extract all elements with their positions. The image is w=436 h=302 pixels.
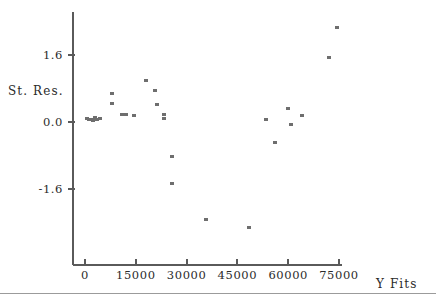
data-point — [264, 118, 268, 121]
data-point — [335, 26, 339, 29]
data-point — [132, 114, 136, 117]
x-tick-mark — [287, 259, 289, 266]
data-point — [300, 114, 304, 117]
data-point — [98, 117, 102, 120]
x-tick-mark — [338, 259, 340, 266]
data-point — [273, 141, 277, 144]
y-tick-label: 0.0 — [3, 115, 63, 129]
x-tick-mark — [135, 259, 137, 266]
plot-area: 1.60.0-1.6 01500030000450006000075000 St… — [0, 0, 436, 302]
data-point — [110, 92, 114, 95]
x-tick-mark — [186, 259, 188, 266]
x-tick-mark — [84, 259, 86, 266]
x-tick-label: 75000 — [304, 268, 374, 282]
y-tick-mark — [68, 121, 75, 123]
y-axis-title: St. Res. — [8, 84, 64, 98]
data-point — [327, 56, 331, 59]
residual-scatter-plot-figure: 1.60.0-1.6 01500030000450006000075000 St… — [0, 0, 436, 302]
data-point — [91, 119, 95, 122]
x-tick-mark — [236, 259, 238, 266]
data-point — [144, 79, 148, 82]
y-tick-mark — [68, 188, 75, 190]
data-point — [289, 123, 293, 126]
y-tick-mark — [68, 54, 75, 56]
data-point — [124, 113, 128, 116]
data-point — [110, 102, 114, 105]
x-axis-line — [73, 264, 342, 266]
data-point — [247, 226, 251, 229]
data-point — [286, 107, 290, 110]
data-point — [155, 103, 159, 106]
y-axis-line — [72, 12, 74, 265]
data-point — [170, 182, 174, 185]
data-point — [162, 117, 166, 120]
bottom-divider-rule — [0, 293, 436, 294]
y-tick-label: 1.6 — [3, 48, 63, 62]
data-point — [153, 89, 157, 92]
data-point — [204, 218, 208, 221]
y-tick-label: -1.6 — [3, 182, 63, 196]
x-axis-title: Y Fits — [376, 277, 417, 291]
data-point — [170, 155, 174, 158]
